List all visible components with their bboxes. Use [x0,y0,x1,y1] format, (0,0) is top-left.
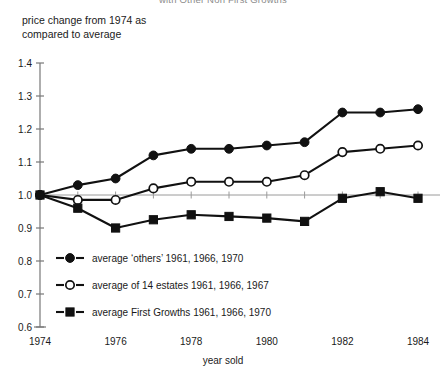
series-2-point [414,141,422,149]
y-tick-label: 1.3 [18,91,32,102]
series-1-point [73,181,82,190]
x-tick-label: 1982 [331,336,354,347]
legend-label-1: average ‘others’ 1961, 1966, 1970 [92,253,244,264]
series-2-point [74,196,82,204]
plot-area: 1.41.31.21.11.00.90.80.70.61974197619781… [0,0,446,379]
legend-marker-open-circle [66,281,74,289]
y-tick-label: 0.8 [18,256,32,267]
series-3-point [301,217,309,225]
series-2-point [111,196,119,204]
series-3-point [36,191,44,199]
series-2-point [187,178,195,186]
series-1-point [262,141,271,150]
series-3-point [74,204,82,212]
price-change-chart: with Other Non First Growths price chang… [0,0,446,379]
series-2-point [225,178,233,186]
series-2-point [376,145,384,153]
series-2-point [300,171,308,179]
series-1-point [225,144,234,153]
legend-marker-filled-circle [66,254,75,263]
series-1-point [300,138,309,147]
y-tick-label: 0.6 [18,322,32,333]
series-3-point [414,194,422,202]
series-1-point [376,108,385,117]
y-tick-label: 0.9 [18,223,32,234]
x-tick-label: 1974 [29,336,52,347]
y-tick-label: 1.4 [18,58,32,69]
series-3-point [338,194,346,202]
series-1-point [338,108,347,117]
x-tick-label: 1978 [180,336,203,347]
series-3-point [263,214,271,222]
y-tick-label: 1.2 [18,124,32,135]
series-1-point [187,144,196,153]
series-3-point [376,188,384,196]
y-tick-label: 0.7 [18,289,32,300]
series-1-point [414,105,423,114]
series-3-point [112,224,120,232]
series-3-point [187,211,195,219]
legend-label-3: average First Growths 1961, 1966, 1970 [92,307,271,318]
series-2-point [338,148,346,156]
series-3-point [225,212,233,220]
series-1-point [111,174,120,183]
legend-marker-filled-square [66,308,74,316]
series-2-point [149,184,157,192]
x-axis-title: year sold [0,355,446,366]
legend-label-2: average of 14 estates 1961, 1966, 1967 [92,280,269,291]
series-3-point [149,216,157,224]
x-tick-label: 1984 [407,336,430,347]
x-tick-label: 1976 [104,336,127,347]
x-tick-label: 1980 [256,336,279,347]
y-tick-label: 1.0 [18,190,32,201]
y-tick-label: 1.1 [18,157,32,168]
series-1-point [149,151,158,160]
series-2-point [263,178,271,186]
